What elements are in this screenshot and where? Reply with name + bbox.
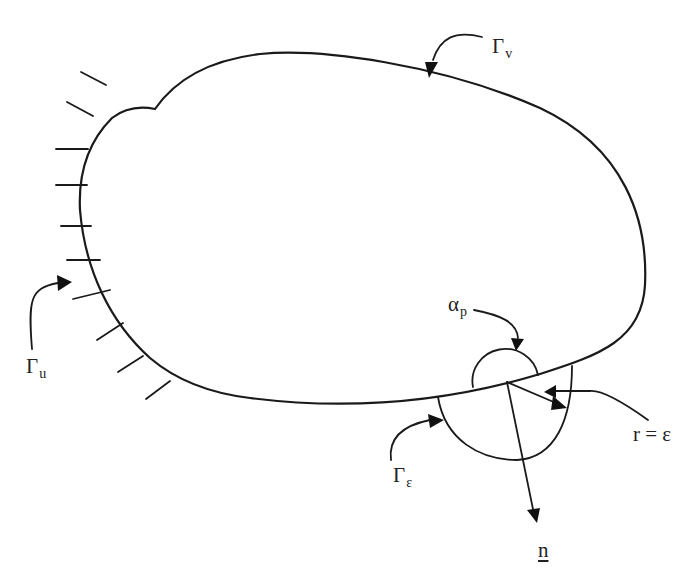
alpha-p-label: αp [448, 294, 467, 315]
gamma-v-label: Γv [492, 36, 512, 57]
gamma-eps-region [438, 366, 572, 460]
alpha-p-arrow [474, 310, 524, 351]
radius-vector [507, 382, 567, 410]
normal-label: n [538, 540, 549, 561]
body-boundary [80, 53, 645, 404]
gamma-u-arrow [30, 275, 72, 349]
normal-vector [507, 382, 540, 523]
gamma-eps-arrow [391, 414, 444, 460]
radius-label: r = ε [633, 424, 671, 445]
domain-diagram [0, 0, 691, 576]
hatch-marks [56, 72, 170, 399]
gamma-u-label: Γu [26, 356, 46, 377]
alpha-p-arc [472, 349, 538, 387]
gamma-eps-label: Γε [393, 465, 412, 486]
